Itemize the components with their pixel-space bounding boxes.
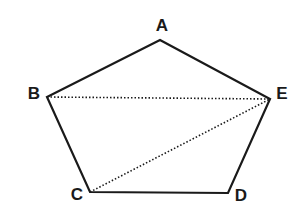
diagonal-ce bbox=[90, 99, 270, 192]
vertex-label-d: D bbox=[235, 186, 247, 205]
vertex-label-b: B bbox=[28, 84, 40, 103]
diagonal-be bbox=[47, 97, 270, 99]
vertex-label-a: A bbox=[156, 16, 168, 35]
vertex-label-e: E bbox=[276, 84, 287, 103]
pentagon-diagram: A B E C D bbox=[0, 0, 305, 220]
vertex-label-c: C bbox=[71, 185, 83, 204]
